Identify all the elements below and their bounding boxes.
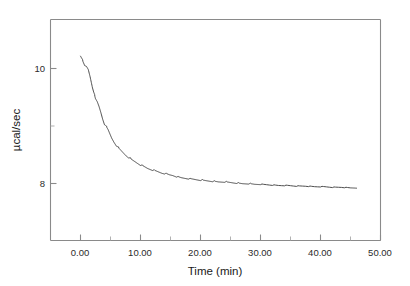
x-axis-ticks [81,235,381,241]
x-tick-label-40: 40.00 [308,247,332,258]
plot-frame [51,20,381,241]
x-tick-label-30: 30.00 [248,247,272,258]
x-tick-label-20: 20.00 [188,247,212,258]
x-tick-labels: 0.00 10.00 20.00 30.00 40.00 50.00 [71,247,392,258]
y-axis-title: µcal/sec [10,109,22,152]
y-axis-ticks [51,69,57,184]
data-series-itc-thermogram [81,56,357,188]
x-tick-label-10: 10.00 [128,247,152,258]
chart-canvas: 10 8 0.00 10.00 20.00 30.00 40.00 50.00 [0,0,410,286]
y-tick-label-8: 8 [40,178,45,189]
chart-figure: 10 8 0.00 10.00 20.00 30.00 40.00 50.00 [0,0,410,286]
y-tick-labels: 10 8 [34,63,45,189]
x-tick-label-50: 50.00 [368,247,392,258]
y-tick-label-10: 10 [34,63,45,74]
x-axis-title: Time (min) [188,265,243,277]
x-tick-label-0: 0.00 [71,247,90,258]
